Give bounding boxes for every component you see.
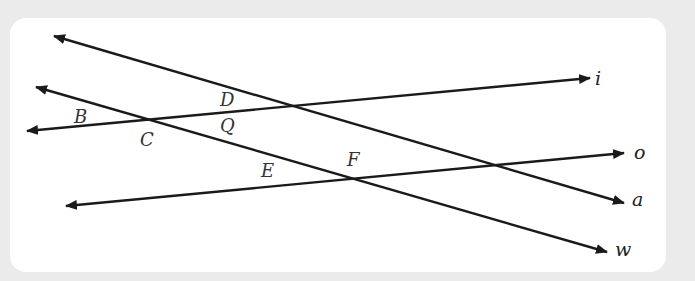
- point-label-Q: Q: [220, 115, 235, 136]
- point-label-F: F: [346, 149, 361, 170]
- point-label-B: B: [73, 106, 87, 127]
- line-w: [36, 87, 607, 252]
- point-label-E: E: [260, 160, 274, 181]
- lines-diagram: i o a w B C D Q E F: [0, 0, 695, 281]
- line-label-i: i: [595, 67, 601, 89]
- line-label-o: o: [634, 141, 645, 163]
- line-label-w: w: [615, 238, 631, 260]
- point-label-C: C: [140, 129, 154, 150]
- line-i: [27, 78, 590, 131]
- line-label-a: a: [632, 188, 643, 210]
- point-label-D: D: [219, 89, 235, 110]
